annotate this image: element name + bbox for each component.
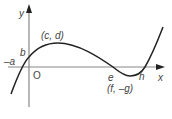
maximum-point-label: (c, d) — [41, 30, 64, 41]
y-axis-label: y — [18, 8, 25, 19]
x-axis-arrow-icon — [156, 64, 165, 70]
x-intercept-left-label: –a — [3, 56, 16, 67]
x-intercept-right-label: h — [139, 71, 145, 82]
y-intercept-label: b — [20, 47, 26, 58]
cubic-graph-diagram: y b –a O (c, d) e (f, –g) h x — [0, 0, 172, 119]
x-axis-label: x — [157, 72, 164, 83]
minimum-point-label: (f, –g) — [107, 83, 133, 94]
x-intercept-mid-label: e — [108, 72, 114, 83]
cubic-curve — [11, 27, 163, 94]
y-axis-arrow-icon — [26, 4, 32, 13]
origin-label: O — [33, 70, 41, 81]
